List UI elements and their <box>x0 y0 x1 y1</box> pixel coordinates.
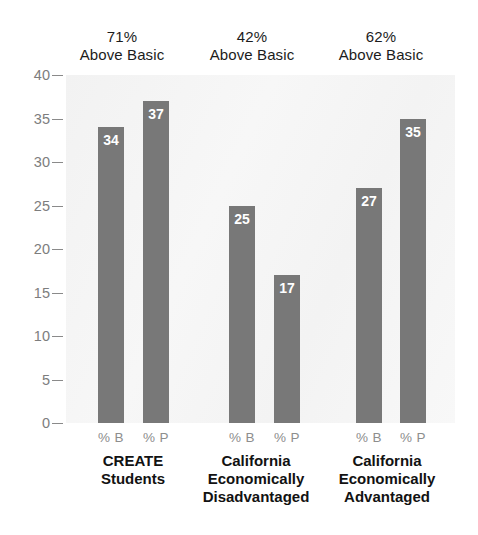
bar-ca-econ-disadvantaged-pct-b <box>229 206 255 424</box>
group-label-line-2: Economically <box>312 470 462 488</box>
y-tick-label-20: 20 <box>4 242 50 256</box>
bar-value-ca-econ-disadvantaged-pct-b: 25 <box>229 212 255 226</box>
y-tick-label-15: 15 <box>4 286 50 300</box>
series-label-group1-pct-p: % P <box>133 431 179 445</box>
bar-value-create-students-pct-p: 37 <box>143 107 169 121</box>
group-label-line-3: Advantaged <box>312 488 462 506</box>
bar-value-ca-econ-disadvantaged-pct-p: 17 <box>274 281 300 295</box>
y-tick-label-40: 40 <box>4 68 50 82</box>
bar-ca-econ-advantaged-pct-b <box>356 188 382 423</box>
series-label-group3-pct-b: % B <box>346 431 392 445</box>
y-tick-mark-25 <box>52 206 63 207</box>
group-annotation-1: 71% Above Basic <box>52 28 192 64</box>
bar-value-create-students-pct-b: 34 <box>98 133 124 147</box>
bar-ca-econ-advantaged-pct-p <box>400 119 426 424</box>
bar-value-ca-econ-advantaged-pct-b: 27 <box>356 194 382 208</box>
y-tick-label-10: 10 <box>4 329 50 343</box>
y-tick-mark-10 <box>52 336 63 337</box>
y-tick-label-25: 25 <box>4 199 50 213</box>
annotation-percent-2: 42% <box>182 28 322 46</box>
y-tick-label-35: 35 <box>4 112 50 126</box>
annotation-percent-3: 62% <box>311 28 451 46</box>
y-tick-mark-20 <box>52 249 63 250</box>
bar-ca-econ-disadvantaged-pct-p <box>274 275 300 423</box>
group-annotation-3: 62% Above Basic <box>311 28 451 64</box>
series-label-group1-pct-b: % B <box>88 431 134 445</box>
annotation-subtitle-1: Above Basic <box>52 46 192 64</box>
bar-create-students-pct-b <box>98 127 124 423</box>
bar-create-students-pct-p <box>143 101 169 423</box>
bar-value-ca-econ-advantaged-pct-p: 35 <box>400 125 426 139</box>
y-tick-mark-5 <box>52 380 63 381</box>
y-tick-mark-15 <box>52 293 63 294</box>
series-label-group2-pct-b: % B <box>219 431 265 445</box>
group-label-line-1: California <box>312 452 462 470</box>
y-tick-mark-0 <box>52 423 63 424</box>
bar-chart: 71% Above Basic 42% Above Basic 62% Abov… <box>0 0 478 535</box>
y-tick-label-0: 0 <box>4 416 50 430</box>
y-tick-mark-30 <box>52 162 63 163</box>
group-label-ca-econ-advantaged: California Economically Advantaged <box>312 452 462 506</box>
series-label-group3-pct-p: % P <box>390 431 436 445</box>
group-annotation-2: 42% Above Basic <box>182 28 322 64</box>
y-tick-mark-40 <box>52 75 63 76</box>
annotation-percent-1: 71% <box>52 28 192 46</box>
annotation-subtitle-3: Above Basic <box>311 46 451 64</box>
y-tick-mark-35 <box>52 119 63 120</box>
y-tick-label-5: 5 <box>4 373 50 387</box>
y-tick-label-30: 30 <box>4 155 50 169</box>
series-label-group2-pct-p: % P <box>264 431 310 445</box>
plot-area <box>66 75 455 423</box>
annotation-subtitle-2: Above Basic <box>182 46 322 64</box>
